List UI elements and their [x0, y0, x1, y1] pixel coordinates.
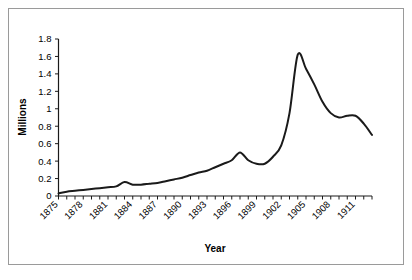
y-axis-tick-label: 1 — [46, 103, 51, 114]
x-axis-tick-labels: 1875187818811884188718901893189618991902… — [37, 199, 357, 222]
x-axis-tick-label: 1875 — [37, 199, 60, 222]
x-axis-tick-label: 1899 — [235, 199, 258, 222]
x-axis-tick-label: 1887 — [136, 199, 159, 222]
chart-figure: 00.20.40.60.811.21.41.61.8 1875187818811… — [0, 0, 412, 280]
y-axis-tick-label: 1.2 — [38, 86, 51, 97]
y-axis-title: Millions — [17, 98, 28, 136]
x-axis-title: Year — [204, 243, 225, 254]
line-chart-plot: 00.20.40.60.811.21.41.61.8 1875187818811… — [0, 0, 412, 280]
y-axis-tick-label: 0.2 — [38, 173, 51, 184]
y-axis-tick-label: 0.8 — [38, 121, 51, 132]
x-axis-tick-label: 1896 — [210, 199, 233, 222]
x-axis-tick-label: 1902 — [260, 199, 283, 222]
x-axis-tick-label: 1878 — [62, 199, 85, 222]
y-axis-tick-label: 1.8 — [38, 33, 51, 44]
x-axis-tick-label: 1893 — [186, 199, 209, 222]
x-axis-tick-label: 1908 — [309, 199, 332, 222]
x-axis-tick-label: 1884 — [111, 199, 134, 222]
y-axis-tick-label: 1.6 — [38, 51, 51, 62]
y-axis-tick-labels: 00.20.40.60.811.21.41.61.8 — [38, 33, 51, 201]
x-axis-tick-label: 1911 — [335, 199, 357, 221]
x-axis-tick-label: 1890 — [161, 199, 184, 222]
data-series-line — [59, 53, 373, 193]
x-axis-tick-label: 1881 — [87, 199, 110, 222]
y-axis-tick-label: 0.4 — [38, 156, 51, 167]
y-axis-tick-label: 0.6 — [38, 138, 51, 149]
y-axis-tick-label: 1.4 — [38, 68, 51, 79]
x-axis-tick-label: 1905 — [285, 199, 308, 222]
